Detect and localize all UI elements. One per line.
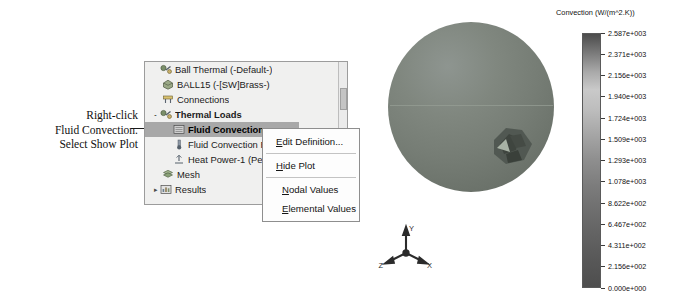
legend-tick-label: 4.311e+002: [608, 241, 646, 250]
context-menu[interactable]: Edit Definition... Hide Plot Nodal Value…: [262, 128, 360, 222]
legend-tick-list: 2.587e+0032.371e+0032.156e+0031.940e+003…: [601, 33, 675, 288]
menu-item-label: Edit Definition...: [276, 136, 343, 147]
tree-item-label: BALL15 (-[SW]Brass-): [177, 79, 270, 90]
results-icon: [160, 184, 172, 195]
triad-y-label: Y: [409, 224, 414, 233]
menu-item-label: Hide Plot: [276, 160, 315, 171]
tree-item-label: Ball Thermal (-Default-): [175, 64, 272, 75]
legend-tick-mark: [601, 118, 605, 119]
tree-item-ball-thermal[interactable]: Ball Thermal (-Default-): [145, 62, 347, 77]
legend-tick-mark: [601, 288, 605, 289]
legend-tick-label: 1.078e+003: [608, 177, 646, 186]
temperature-icon: [173, 139, 185, 150]
tree-item-label: Connections: [177, 94, 229, 105]
menu-item-label: Elemental Values: [282, 203, 356, 214]
coordinate-triad: Y Z X: [378, 222, 434, 270]
callout-annotation: Right-click Fluid Convection. Select Sho…: [18, 108, 138, 152]
tree-item-label: Thermal Loads: [175, 109, 242, 120]
thermal-loads-icon: [160, 109, 172, 120]
legend-tick-label: 1.724e+003: [608, 113, 646, 122]
legend-tick-label: 2.156e+003: [608, 71, 646, 80]
legend-tick-label: 2.156e+002: [608, 262, 646, 271]
legend-title: Convection (W/(m^2.K)): [556, 8, 635, 17]
triad-x-label: X: [427, 261, 432, 270]
legend-tick-mark: [601, 75, 605, 76]
connections-icon: [162, 94, 174, 105]
menu-item-label: Nodal Values: [282, 184, 338, 195]
triad-z-label: Z: [379, 261, 384, 270]
legend-tick-label: 0.000e+000: [608, 283, 646, 292]
legend-tick-label: 1.293e+003: [608, 156, 646, 165]
legend-tick-mark: [601, 54, 605, 55]
legend-tick-mark: [601, 224, 605, 225]
study-icon: [160, 64, 172, 75]
menu-item-hide-plot[interactable]: Hide Plot: [263, 156, 359, 175]
model-viewport[interactable]: [388, 22, 554, 192]
tree-item-thermal-loads[interactable]: - Thermal Loads: [145, 107, 347, 122]
tree-item-label: Fluid Convection: [188, 124, 264, 135]
heat-power-icon: [173, 154, 185, 165]
tree-scrollbar-thumb[interactable]: [340, 88, 347, 110]
menu-separator: [266, 177, 356, 178]
legend-tick-mark: [601, 245, 605, 246]
tree-item-label: Mesh: [177, 169, 200, 180]
sphere-model[interactable]: [388, 22, 554, 192]
tree-item-connections[interactable]: Connections: [145, 92, 347, 107]
annotation-line-2: Fluid Convection.: [18, 123, 138, 138]
legend-tick-mark: [601, 181, 605, 182]
tree-item-ball15[interactable]: BALL15 (-[SW]Brass-): [145, 77, 347, 92]
menu-item-nodal-values[interactable]: Nodal Values: [263, 180, 359, 199]
legend-tick-label: 2.371e+003: [608, 49, 646, 58]
tree-twisty[interactable]: ▸: [151, 186, 160, 193]
legend-tick-label: 8.622e+002: [608, 198, 646, 207]
mesh-icon: [162, 169, 174, 180]
menu-item-elemental-values[interactable]: Elemental Values: [263, 199, 359, 218]
legend-tick-label: 2.587e+003: [608, 28, 646, 37]
tree-twisty[interactable]: -: [151, 111, 160, 118]
tree-item-label: Heat Power-1 (Per i: [188, 154, 270, 165]
legend-tick-mark: [601, 203, 605, 204]
legend-tick-label: 1.940e+003: [608, 92, 646, 101]
legend-tick-mark: [601, 33, 605, 34]
fluid-convection-icon: [173, 124, 185, 135]
legend-tick-mark: [601, 139, 605, 140]
legend-tick-label: 1.509e+003: [608, 134, 646, 143]
annotation-line-3: Select Show Plot: [18, 137, 138, 152]
legend-color-bar: [582, 33, 601, 288]
legend-tick-label: 6.467e+002: [608, 219, 646, 228]
solid-body-icon: [162, 79, 174, 90]
sphere-equator-line: [390, 105, 553, 106]
menu-separator: [266, 153, 356, 154]
legend-tick-mark: [601, 160, 605, 161]
convection-face-patch: [480, 114, 538, 170]
tree-item-label: Results: [175, 184, 206, 195]
legend-tick-mark: [601, 96, 605, 97]
annotation-line-1: Right-click: [18, 108, 138, 123]
legend-tick-mark: [601, 266, 605, 267]
color-legend: Convection (W/(m^2.K)) 2.587e+0032.371e+…: [556, 8, 674, 293]
menu-item-edit-definition[interactable]: Edit Definition...: [263, 132, 359, 151]
